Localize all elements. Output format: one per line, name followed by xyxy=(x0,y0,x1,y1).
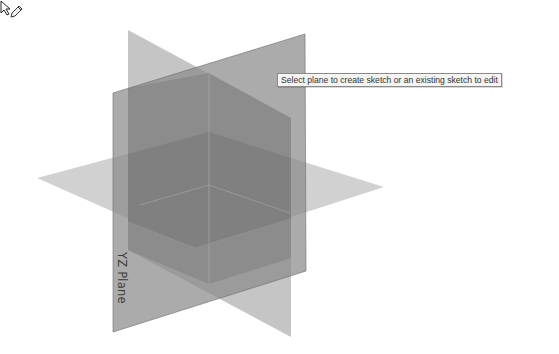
origin-planes-graphic xyxy=(0,0,559,354)
yz-plane-label: YZ Plane xyxy=(113,252,129,324)
sketch-select-cursor-icon xyxy=(0,0,24,18)
3d-viewport[interactable]: YZ Plane Select plane to create sketch o… xyxy=(0,0,559,354)
tooltip: Select plane to create sketch or an exis… xyxy=(277,73,502,87)
